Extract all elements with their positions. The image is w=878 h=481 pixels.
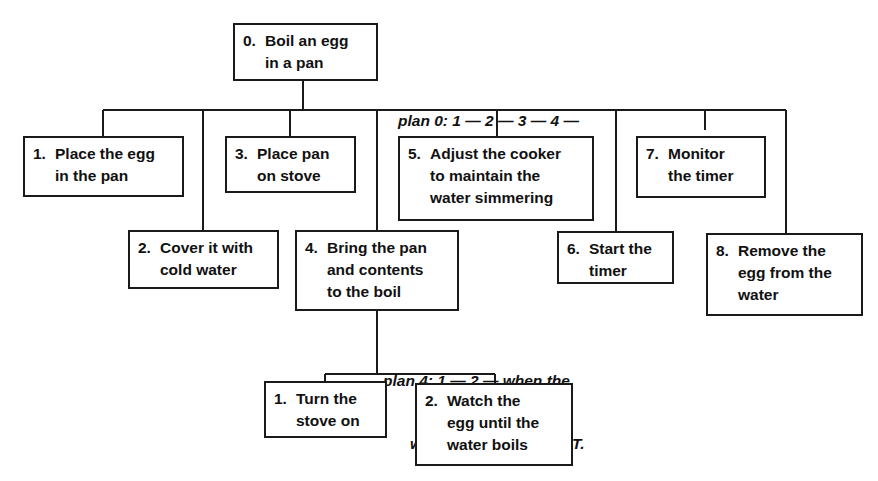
task-number: 7. [646,143,668,187]
task-number: 0. [243,30,265,74]
task-number: 8. [716,240,738,306]
task-box-5: 5. Adjust the cooker to maintain the wat… [398,136,594,221]
task-number: 5. [408,143,430,209]
plan-0-line-1: plan 0: 1 — 2 — 3 — 4 — [398,110,579,131]
task-label: Bring the pan and contents to the boil [327,237,451,303]
task-box-1: 1. Place the egg in the pan [23,136,184,197]
task-number: 3. [235,143,257,187]
task-box-3: 3. Place pan on stove [225,136,356,193]
task-number: 1. [33,143,55,187]
task-box-7: 7. Monitor the timer [636,136,766,198]
task-label: Start the timer [589,238,666,282]
task-number: 4. [305,237,327,303]
task-label: Monitor the timer [668,143,758,187]
task-label: Watch the egg until the water boils [447,390,565,456]
task-number: 1. [274,388,296,432]
task-label: Cover it with cold water [160,237,271,281]
task-box-6: 6. Start the timer [557,231,674,284]
task-box-4-2: 2. Watch the egg until the water boils [415,383,573,466]
task-box-2: 2. Cover it with cold water [128,230,279,289]
task-label: Adjust the cooker to maintain the water … [430,143,586,209]
task-label: Turn the stove on [296,388,379,432]
task-number: 2. [425,390,447,456]
task-label: Place pan on stove [257,143,348,187]
task-box-0: 0. Boil an egg in a pan [233,23,378,81]
task-analysis-diagram: 0. Boil an egg in a pan plan 0: 1 — 2 — … [0,0,878,481]
task-label: Remove the egg from the water [738,240,855,306]
task-label: Place the egg in the pan [55,143,176,187]
task-number: 2. [138,237,160,281]
task-box-8: 8. Remove the egg from the water [706,233,863,316]
task-number: 6. [567,238,589,282]
task-box-4-1: 1. Turn the stove on [264,381,387,438]
task-label: Boil an egg in a pan [265,30,370,74]
task-box-4: 4. Bring the pan and contents to the boi… [295,230,459,311]
